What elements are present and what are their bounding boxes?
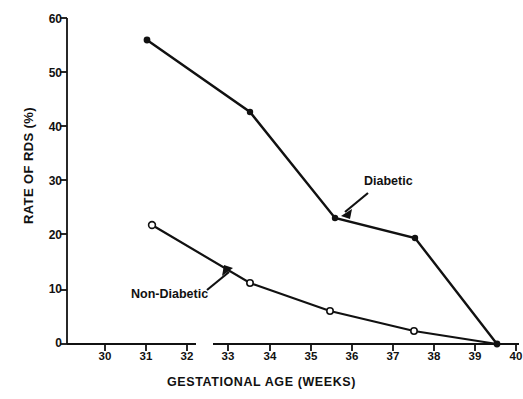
annotation-arrow-non-diabetic xyxy=(207,265,233,290)
series-markers-non-diabetic xyxy=(149,222,418,335)
series-markers-diabetic xyxy=(144,37,501,348)
plot-area xyxy=(0,0,523,399)
series-line-diabetic xyxy=(147,40,497,344)
x-tick-marks xyxy=(105,344,516,351)
chart-figure: RATE OF RDS (%) 60 50 40 30 20 10 0 30 3… xyxy=(0,0,523,399)
annotation-arrow-diabetic xyxy=(341,193,368,219)
y-tick-marks xyxy=(60,18,67,344)
series-line-non-diabetic xyxy=(152,225,497,344)
